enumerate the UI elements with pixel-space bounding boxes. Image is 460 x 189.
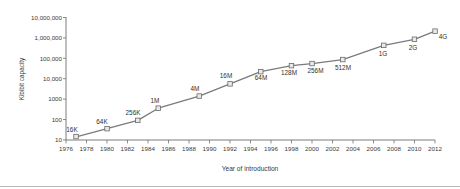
x-tick-label: 2004 [346,145,360,152]
data-point-marker[interactable] [382,43,387,48]
data-point-marker[interactable] [289,63,294,68]
y-tick-label: 10,000,000 [31,14,63,21]
x-tick-label: 1990 [203,145,217,152]
y-axis [63,17,66,140]
data-point-label: 4G [439,33,448,40]
data-point-marker[interactable] [412,37,417,42]
x-tick-label: 2006 [367,145,381,152]
y-tick-label: 100 [52,116,63,123]
y-tick-label: 100,000 [40,55,63,62]
data-point-label: 4M [191,85,200,92]
x-tick-label: 2010 [408,145,422,152]
data-point-marker[interactable] [228,82,233,87]
data-point-marker[interactable] [105,126,110,130]
data-point-label: 64K [96,118,108,125]
x-tick-label: 1986 [162,145,176,152]
bottom-divider [0,186,460,187]
data-point-label: 512M [335,64,351,71]
data-point-marker[interactable] [156,106,161,111]
x-tick-label: 2002 [326,145,340,152]
y-axis-title: Kibibit capacity [18,57,26,100]
data-point-labels: 16K 64K 256K 1M 4M 16M 64M 128M 256M 512… [66,33,447,134]
x-axis [66,140,435,143]
x-tick-label: 1996 [264,145,278,152]
x-tick-label: 1984 [141,145,155,152]
data-point-marker[interactable] [74,134,79,139]
y-tick-label: 10,000 [43,75,62,82]
data-point-label: 256K [126,109,142,116]
data-point-label: 64M [255,74,267,81]
x-tick-label: 1982 [121,145,135,152]
x-axis-tick-labels: 1976 1978 1980 1982 1984 1986 1988 1990 … [59,145,442,152]
x-tick-label: 2012 [428,145,442,152]
data-point-marker[interactable] [310,61,315,66]
x-tick-label: 1988 [182,145,196,152]
chart-figure: 10,000,000 1,000,000 100,000 10,000 1000… [0,0,460,189]
data-point-label: 16K [66,126,78,133]
x-tick-label: 1994 [244,145,258,152]
data-point-label: 256M [308,67,324,74]
data-point-label: 16M [220,72,232,79]
data-point-marker[interactable] [136,118,141,123]
x-tick-label: 1976 [59,145,73,152]
data-point-label: 1M [151,97,160,104]
capacity-vs-year-line-chart: 10,000,000 1,000,000 100,000 10,000 1000… [0,0,460,189]
y-axis-tick-labels: 10,000,000 1,000,000 100,000 10,000 1000… [31,14,63,143]
x-tick-label: 1992 [223,145,237,152]
data-point-label: 1G [379,50,388,57]
data-point-marker[interactable] [197,94,202,99]
x-tick-label: 2008 [387,145,401,152]
x-tick-label: 1980 [100,145,114,152]
data-point-marker[interactable] [433,29,438,34]
y-tick-label: 1000 [48,95,62,102]
x-axis-title: Year of introduction [222,165,279,172]
x-tick-label: 1978 [80,145,94,152]
x-tick-label: 1998 [285,145,299,152]
y-tick-label: 1,000,000 [34,34,62,41]
data-point-label: 2G [409,44,418,51]
data-point-marker[interactable] [341,57,346,62]
x-tick-label: 2000 [305,145,319,152]
y-tick-label: 10 [55,136,62,143]
data-point-label: 128M [281,69,297,76]
